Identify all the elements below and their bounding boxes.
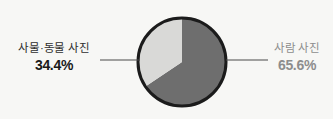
pie-chart: 사물·동물 사진 34.4% 사람 사진 65.6% [0,0,333,119]
label-object-animal-photo-name: 사물·동물 사진 [8,42,100,54]
label-object-animal-photo-value: 34.4% [8,58,100,73]
label-object-animal-photo: 사물·동물 사진 34.4% [8,42,100,73]
label-people-photo-value: 65.6% [264,58,330,73]
label-people-photo-name: 사람 사진 [264,42,330,54]
label-people-photo: 사람 사진 65.6% [264,42,330,73]
